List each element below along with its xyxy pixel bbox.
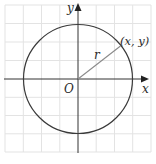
y-axis-arrow-icon — [75, 3, 82, 11]
y-axis-label: y — [66, 1, 74, 15]
unit-circle-diagram: y x O r (x, y) — [0, 0, 156, 164]
radius-label: r — [94, 48, 101, 62]
x-axis-label: x — [142, 82, 149, 96]
origin-label: O — [64, 82, 74, 96]
point-label: (x, y) — [120, 34, 149, 48]
